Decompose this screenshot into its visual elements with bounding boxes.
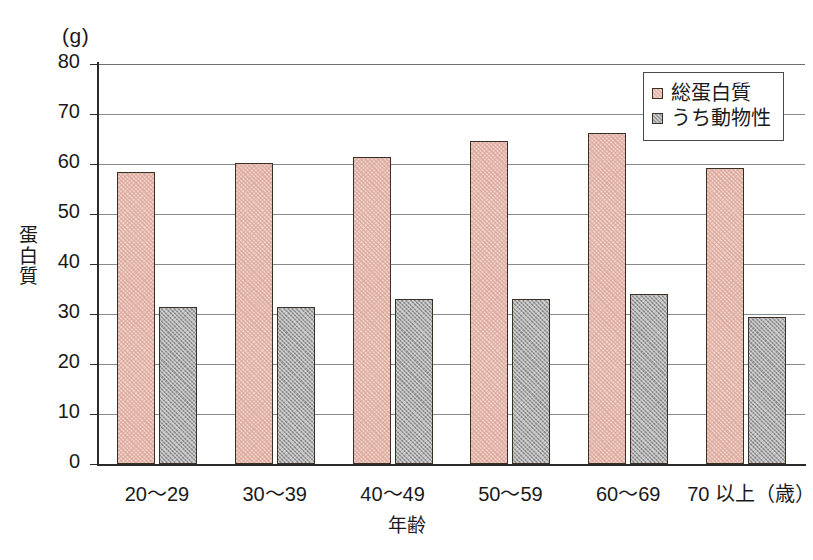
x-axis-line (97, 464, 806, 466)
y-tick-30 (90, 314, 98, 315)
gridline-80 (98, 64, 805, 65)
bar-total-protein-2 (353, 157, 391, 465)
y-tick-60 (90, 164, 98, 165)
animal-protein-swatch-icon (652, 113, 663, 124)
y-tick-10 (90, 414, 98, 415)
bar-total-protein-3 (470, 141, 508, 464)
legend-entry-total-protein: 総蛋白質 (652, 82, 771, 105)
bar-animal-protein-0 (159, 307, 197, 465)
chart-legend: 総蛋白質 うち動物性 (643, 72, 784, 141)
y-tick-label-20: 20 (0, 350, 80, 373)
x-category-label-3: 50～59 (452, 478, 570, 507)
bar-animal-protein-4 (630, 294, 668, 464)
y-tick-label-50: 50 (0, 200, 80, 223)
y-tick-70 (90, 114, 98, 115)
bar-animal-protein-1 (277, 307, 315, 464)
y-tick-label-0: 0 (0, 450, 80, 473)
y-tick-50 (90, 214, 98, 215)
y-axis-title-char-0: 蛋 (14, 226, 42, 247)
x-category-label-5: 70 以上（歳） (687, 478, 805, 507)
gridline-50 (98, 214, 805, 215)
bar-animal-protein-3 (512, 299, 550, 465)
gridline-60 (98, 164, 805, 165)
gridline-10 (98, 414, 805, 415)
x-category-label-4: 60～69 (569, 478, 687, 507)
y-tick-label-60: 60 (0, 150, 80, 173)
x-category-label-2: 40～49 (334, 478, 452, 507)
gridline-20 (98, 364, 805, 365)
y-tick-label-70: 70 (0, 100, 80, 123)
bar-total-protein-1 (235, 163, 273, 465)
legend-label-animal-protein: うち動物性 (671, 107, 771, 130)
legend-label-total-protein: 総蛋白質 (671, 82, 751, 105)
chart-figure: (g) 蛋白質 01020304050607080 20～2930～3940～4… (0, 0, 813, 560)
legend-entry-animal-protein: うち動物性 (652, 107, 771, 130)
y-tick-label-10: 10 (0, 400, 80, 423)
y-tick-label-40: 40 (0, 250, 80, 273)
bar-animal-protein-2 (395, 299, 433, 465)
gridline-40 (98, 264, 805, 265)
y-tick-40 (90, 264, 98, 265)
y-axis-unit-label: (g) (62, 24, 89, 48)
y-tick-label-30: 30 (0, 300, 80, 323)
x-axis-title: 年齢 (0, 510, 813, 537)
y-tick-80 (90, 64, 98, 65)
y-tick-0 (90, 464, 98, 465)
bar-animal-protein-5 (748, 317, 786, 464)
y-tick-20 (90, 364, 98, 365)
bar-total-protein-0 (117, 172, 155, 464)
bar-total-protein-5 (706, 168, 744, 465)
x-category-label-0: 20～29 (98, 478, 216, 507)
y-tick-label-80: 80 (0, 50, 80, 73)
x-category-label-1: 30～39 (216, 478, 334, 507)
bar-total-protein-4 (588, 133, 626, 465)
gridline-30 (98, 314, 805, 315)
total-protein-swatch-icon (652, 88, 663, 99)
